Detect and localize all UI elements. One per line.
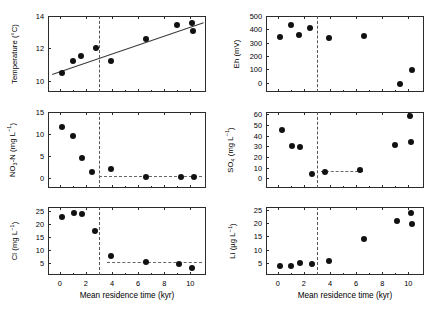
y-tick-mark-temperature (48, 48, 51, 49)
data-point (288, 22, 294, 28)
y-tick-label-cl: 15 (36, 233, 44, 242)
x-tick-mark-top-temperature (112, 16, 113, 19)
x-tick-mark-top-no3n (60, 112, 61, 115)
x-minor-tick-so4 (343, 186, 344, 188)
x-tick-mark-temperature (60, 89, 61, 92)
x-tick-label-li: 0 (276, 279, 280, 288)
x-tick-mark-no3n (190, 185, 191, 188)
x-tick-mark-eh (382, 89, 383, 92)
y-tick-label-eh: 500 (250, 12, 262, 21)
x-minor-tick-temperature (125, 90, 126, 92)
panel-temperature: Temperature (°C)101214 (48, 16, 206, 92)
x-tick-mark-so4 (304, 185, 305, 188)
data-point (409, 67, 415, 73)
data-point (189, 265, 195, 271)
data-point (297, 260, 303, 266)
x-tick-mark-eh (304, 89, 305, 92)
data-point (59, 70, 65, 76)
data-point (392, 142, 398, 148)
data-point (143, 259, 149, 265)
data-point (307, 25, 313, 31)
x-tick-mark-temperature (190, 89, 191, 92)
trend-line-cl (107, 262, 202, 263)
threshold-line-li (317, 207, 318, 275)
data-point (296, 32, 302, 38)
y-axis-label-cl: Cl (mg L−1) (9, 222, 20, 261)
y-tick-mark-li (266, 210, 269, 211)
y-tick-mark-cl (48, 237, 51, 238)
x-minor-tick-no3n (125, 186, 126, 188)
data-point (79, 155, 85, 161)
y-tick-label-so4: 20 (254, 152, 262, 161)
x-tick-mark-no3n (86, 185, 87, 188)
x-tick-mark-top-li (304, 207, 305, 210)
x-tick-mark-top-so4 (304, 112, 305, 115)
x-minor-tick-no3n (73, 186, 74, 188)
x-tick-mark-top-eh (278, 16, 279, 19)
y-tick-mark-so4 (266, 114, 269, 115)
x-minor-tick-li (291, 273, 292, 275)
x-minor-tick-cl (151, 273, 152, 275)
data-point (190, 28, 196, 34)
y-tick-mark-so4 (266, 157, 269, 158)
y-tick-label-so4: 30 (254, 142, 262, 151)
data-point (322, 169, 328, 175)
y-tick-mark-cl (48, 250, 51, 251)
x-tick-mark-so4 (330, 185, 331, 188)
y-tick-mark-so4 (266, 146, 269, 147)
data-point (174, 22, 180, 28)
y-tick-label-so4: 50 (254, 120, 262, 129)
x-tick-mark-no3n (112, 185, 113, 188)
x-tick-mark-no3n (138, 185, 139, 188)
y-tick-mark-li (266, 250, 269, 251)
x-tick-mark-top-cl (138, 207, 139, 210)
x-tick-mark-cl (164, 272, 165, 275)
x-tick-mark-top-temperature (138, 16, 139, 19)
y-tick-label-temperature: 10 (36, 76, 44, 85)
x-minor-tick-eh (395, 90, 396, 92)
data-point (361, 236, 367, 242)
y-axis-label-li: Li (µg L−1) (227, 223, 238, 258)
y-axis-label-temperature: Temperature (°C) (10, 24, 19, 84)
x-tick-mark-temperature (112, 89, 113, 92)
data-point (70, 58, 76, 64)
trend-line-no3n (99, 176, 202, 177)
x-tick-mark-top-cl (164, 207, 165, 210)
data-point (309, 171, 315, 177)
data-point (279, 127, 285, 133)
x-tick-mark-top-eh (408, 16, 409, 19)
data-point (288, 263, 294, 269)
x-tick-mark-temperature (164, 89, 165, 92)
y-axis-label-so4: SO4 (mg L−1) (224, 127, 236, 173)
y-tick-mark-temperature (48, 16, 51, 17)
threshold-line-so4 (317, 112, 318, 188)
x-tick-mark-top-cl (190, 207, 191, 210)
data-point (309, 261, 315, 267)
x-tick-mark-temperature (86, 89, 87, 92)
x-tick-mark-top-no3n (190, 112, 191, 115)
x-tick-label-cl: 8 (162, 279, 166, 288)
y-tick-label-no3n: 10 (36, 130, 44, 139)
y-tick-label-eh: 100 (250, 65, 262, 74)
x-tick-mark-li (382, 272, 383, 275)
x-tick-mark-eh (278, 89, 279, 92)
data-point (59, 214, 65, 220)
y-tick-label-cl: 25 (36, 206, 44, 215)
y-tick-mark-eh (266, 69, 269, 70)
x-axis-label-cl: Mean residence time (kyr) (80, 291, 175, 300)
y-tick-mark-eh (266, 83, 269, 84)
y-tick-mark-eh (266, 43, 269, 44)
x-tick-mark-top-temperature (190, 16, 191, 19)
plot-frame-temperature (48, 16, 206, 92)
data-point (89, 169, 95, 175)
data-point (108, 58, 114, 64)
x-tick-mark-li (304, 272, 305, 275)
data-point (93, 45, 99, 51)
x-tick-mark-cl (86, 272, 87, 275)
x-tick-label-cl: 4 (110, 279, 114, 288)
y-axis-label-eh: Eh (mV) (232, 40, 241, 69)
data-point (176, 261, 182, 267)
y-tick-mark-eh (266, 29, 269, 30)
x-tick-mark-cl (190, 272, 191, 275)
x-minor-tick-so4 (291, 186, 292, 188)
